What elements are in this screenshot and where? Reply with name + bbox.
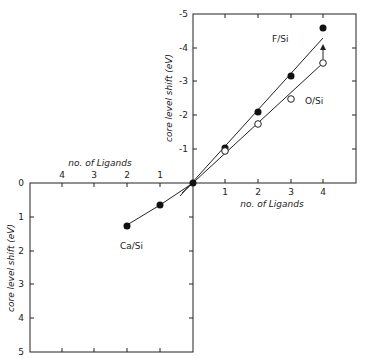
osi-fit-line (182, 63, 323, 193)
upper-x-tick-2: 2 (255, 187, 261, 197)
lower-x-tick-4: 4 (59, 170, 65, 180)
lower-y-tick-3: 3 (18, 279, 24, 289)
lower-y-tick-2: 2 (18, 246, 24, 256)
upper-y-tick-3: -3 (179, 76, 188, 86)
fsi-fit-line (180, 38, 323, 196)
upper-y-tick-4: -4 (179, 43, 188, 53)
lower-x-tick-2: 2 (124, 170, 130, 180)
upper-y-tick-2: -2 (179, 110, 188, 120)
lower-y-tick-5: 5 (18, 347, 24, 357)
osi-label: O/Si (305, 96, 323, 106)
lower-y-tick-0: 0 (18, 178, 24, 188)
upper-x-axis-label: no. of Ligands (240, 199, 304, 209)
lower-y-tick-1: 1 (18, 212, 24, 222)
chart-canvas: 1 2 3 4 no. of Ligands -1 -2 -3 -4 -5 co… (0, 0, 367, 362)
upper-x-tick-3: 3 (288, 187, 294, 197)
lower-x-axis-label: no. of Ligands (68, 158, 132, 168)
lower-x-ticks (62, 183, 160, 352)
lower-panel-frame (30, 183, 193, 352)
upper-x-tick-1: 1 (222, 187, 228, 197)
lower-y-axis-label: core level shift (eV) (6, 224, 16, 312)
casi-label: Ca/Si (120, 241, 143, 251)
upper-y-tick-1: -1 (179, 144, 188, 154)
lower-x-tick-3: 3 (91, 170, 97, 180)
fsi-label: F/Si (272, 34, 288, 44)
lower-y-tick-4: 4 (18, 313, 24, 323)
upper-x-ticks (225, 179, 323, 183)
lower-y-ticks (30, 217, 193, 318)
arrow-up-icon (320, 44, 326, 59)
upper-x-tick-4: 4 (320, 187, 326, 197)
upper-y-tick-5: -5 (179, 9, 188, 19)
lower-x-tick-1: 1 (157, 170, 163, 180)
upper-y-axis-label: core level shift (eV) (164, 54, 174, 142)
